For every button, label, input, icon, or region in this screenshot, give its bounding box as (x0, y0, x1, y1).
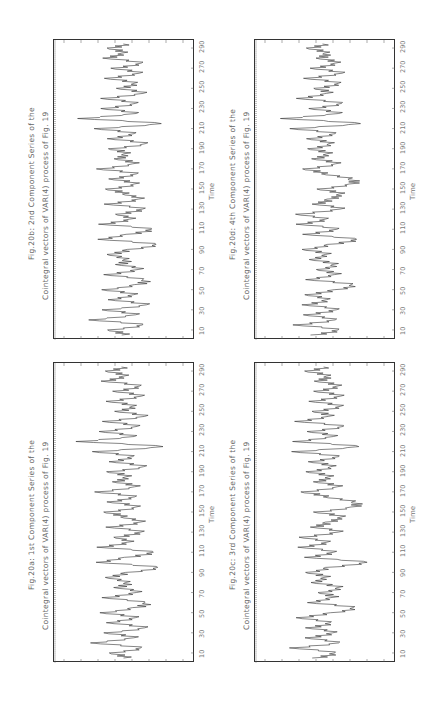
line-series (255, 363, 396, 663)
x-tick-label: 290 (399, 41, 407, 53)
x-tick-label: 170 (399, 484, 407, 496)
x-tick-label: 30 (399, 307, 407, 315)
x-tick-label: 30 (198, 307, 206, 315)
x-tick-label: 170 (198, 484, 206, 496)
line-series (255, 40, 396, 340)
line-series (54, 40, 195, 340)
x-tick-label: 70 (198, 266, 206, 274)
panel-title: Fig.20c: 3rd Component Series of the (228, 439, 237, 590)
x-tick-label: 190 (198, 141, 206, 153)
x-tick-label: 170 (399, 161, 407, 173)
x-tick-label: 270 (399, 61, 407, 73)
x-tick-label: 130 (399, 202, 407, 214)
x-tick-label: 250 (198, 404, 206, 416)
x-tick-label: 210 (399, 121, 407, 133)
panel-fig20c (254, 362, 395, 662)
panel-subtitle: Cointegral vectors of VAR(4) process of … (41, 441, 50, 630)
x-tick-label: 290 (399, 364, 407, 376)
x-tick-label: 30 (399, 630, 407, 638)
line-series (54, 363, 195, 663)
x-tick-label: 30 (198, 630, 206, 638)
x-tick-label: 130 (399, 525, 407, 537)
x-tick-label: 90 (198, 569, 206, 577)
x-tick-label: 150 (399, 505, 407, 517)
x-tick-label: 290 (198, 41, 206, 53)
x-tick-label: 230 (198, 101, 206, 113)
x-tick-label: 230 (399, 101, 407, 113)
panel-fig20a (53, 362, 194, 662)
x-tick-label: 270 (198, 61, 206, 73)
x-tick-label: 210 (399, 444, 407, 456)
x-tick-label: 70 (399, 266, 407, 274)
x-tick-label: 90 (198, 246, 206, 254)
panel-title: Fig.20d: 4th Component Series of the (228, 109, 237, 260)
x-tick-label: 50 (399, 609, 407, 617)
x-tick-label: 90 (399, 246, 407, 254)
x-axis-label: Time (409, 506, 417, 523)
x-tick-label: 190 (198, 464, 206, 476)
plot-frame (53, 39, 194, 339)
panel-subtitle: Cointegral vectors of VAR(4) process of … (41, 111, 50, 300)
x-tick-label: 10 (399, 327, 407, 335)
x-tick-label: 270 (399, 384, 407, 396)
x-tick-label: 110 (399, 545, 407, 557)
x-tick-label: 210 (198, 121, 206, 133)
x-tick-label: 10 (198, 327, 206, 335)
x-tick-label: 290 (198, 364, 206, 376)
x-tick-label: 50 (399, 286, 407, 294)
x-tick-label: 110 (399, 222, 407, 234)
x-tick-label: 250 (399, 81, 407, 93)
x-tick-label: 150 (198, 505, 206, 517)
x-tick-label: 210 (198, 444, 206, 456)
plot-frame (254, 362, 395, 662)
x-tick-label: 70 (399, 589, 407, 597)
x-tick-label: 50 (198, 609, 206, 617)
panel-subtitle: Cointegral vectors of VAR(4) process of … (242, 441, 251, 630)
plot-frame (254, 39, 395, 339)
x-tick-label: 130 (198, 202, 206, 214)
x-tick-label: 250 (399, 404, 407, 416)
x-tick-label: 50 (198, 286, 206, 294)
panel-title: Fig.20b: 2nd Component Series of the (27, 107, 36, 260)
x-tick-label: 190 (399, 141, 407, 153)
x-tick-label: 90 (399, 569, 407, 577)
panel-title: Fig.20a: 1st Component Series of the (27, 440, 36, 590)
x-tick-label: 150 (198, 182, 206, 194)
panel-fig20b (53, 39, 194, 339)
x-tick-label: 10 (399, 650, 407, 658)
x-tick-label: 130 (198, 525, 206, 537)
panel-subtitle: Cointegral vectors of VAR(4) process of … (242, 111, 251, 300)
x-tick-label: 270 (198, 384, 206, 396)
panel-fig20d (254, 39, 395, 339)
x-tick-label: 170 (198, 161, 206, 173)
x-axis-label: Time (208, 183, 216, 200)
x-tick-label: 110 (198, 545, 206, 557)
x-tick-label: 230 (198, 424, 206, 436)
x-axis-label: Time (409, 183, 417, 200)
x-tick-label: 150 (399, 182, 407, 194)
x-tick-label: 190 (399, 464, 407, 476)
x-tick-label: 70 (198, 589, 206, 597)
x-tick-label: 110 (198, 222, 206, 234)
x-tick-label: 250 (198, 81, 206, 93)
x-axis-label: Time (208, 506, 216, 523)
plot-frame (53, 362, 194, 662)
x-tick-label: 230 (399, 424, 407, 436)
x-tick-label: 10 (198, 650, 206, 658)
